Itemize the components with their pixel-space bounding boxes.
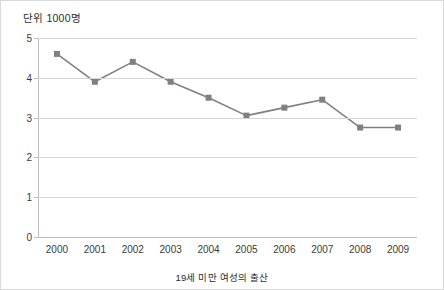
- data-point-marker: [357, 125, 363, 131]
- data-point-marker: [206, 95, 212, 101]
- x-axis-tick-label: 2008: [340, 244, 380, 255]
- series-polyline: [57, 54, 398, 128]
- data-point-marker: [281, 105, 287, 111]
- data-point-marker: [130, 59, 136, 65]
- y-axis-tick-mark: [34, 197, 38, 198]
- data-point-marker: [395, 125, 401, 131]
- y-axis-tick-mark: [34, 118, 38, 119]
- x-axis-tick-label: 2002: [113, 244, 153, 255]
- y-axis-tick-label: 2: [8, 152, 32, 163]
- y-axis-tick-label: 3: [8, 112, 32, 123]
- plot-area: [38, 38, 417, 237]
- x-axis-tick-label: 2000: [37, 244, 77, 255]
- gridline: [38, 78, 417, 79]
- y-axis-tick-label: 0: [8, 232, 32, 243]
- chart-caption: 19세 미만 여성의 출산: [1, 270, 443, 284]
- y-axis-tick-mark: [34, 78, 38, 79]
- chart-figure: 단위 1000명 012345 200020012002200320042005…: [0, 0, 444, 290]
- gridline: [38, 118, 417, 119]
- x-axis-tick-label: 2006: [264, 244, 304, 255]
- x-axis-tick-label: 2009: [378, 244, 418, 255]
- x-axis-tick-label: 2003: [151, 244, 191, 255]
- data-point-marker: [54, 51, 60, 57]
- x-axis-tick-label: 2007: [302, 244, 342, 255]
- x-axis-tick-label: 2001: [75, 244, 115, 255]
- y-axis-tick-labels: 012345: [1, 1, 32, 290]
- y-axis-tick-mark: [34, 237, 38, 238]
- gridline: [38, 38, 417, 39]
- y-axis-tick-mark: [34, 38, 38, 39]
- x-axis-tick-label: 2004: [189, 244, 229, 255]
- gridline: [38, 237, 417, 238]
- x-axis-tick-label: 2005: [226, 244, 266, 255]
- data-point-marker: [168, 79, 174, 85]
- gridline: [38, 157, 417, 158]
- data-point-marker: [92, 79, 98, 85]
- gridline: [38, 197, 417, 198]
- data-series-line: [38, 38, 417, 237]
- y-axis-tick-label: 5: [8, 33, 32, 44]
- y-axis-tick-mark: [34, 157, 38, 158]
- data-point-marker: [319, 97, 325, 103]
- y-axis-tick-label: 4: [8, 72, 32, 83]
- y-axis-tick-label: 1: [8, 192, 32, 203]
